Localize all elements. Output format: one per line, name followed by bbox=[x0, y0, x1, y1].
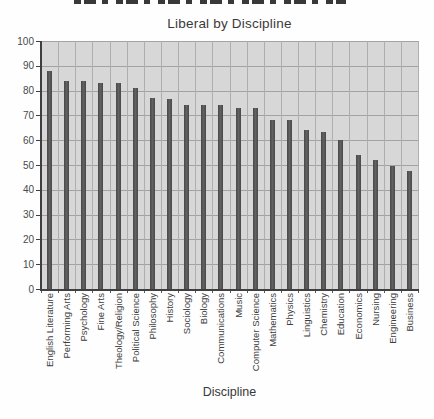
x-category-label-theology-religion: Theology/Religion bbox=[112, 293, 125, 383]
x-gridline bbox=[315, 41, 316, 289]
x-category-label-sociology: Sociology bbox=[180, 293, 193, 383]
x-category-label-business: Business bbox=[403, 293, 416, 383]
y-axis-tick-label: 10 bbox=[6, 259, 34, 270]
bar-performing-arts bbox=[64, 81, 69, 289]
x-gridline bbox=[75, 41, 76, 289]
y-axis-tick-label: 60 bbox=[6, 135, 34, 146]
bar-mathematics bbox=[270, 120, 275, 289]
bar-theology-religion bbox=[116, 83, 121, 289]
x-gridline bbox=[178, 41, 179, 289]
y-axis-tick-label: 20 bbox=[6, 234, 34, 245]
x-gridline bbox=[298, 41, 299, 289]
bar-economics bbox=[356, 155, 361, 289]
x-gridline bbox=[127, 41, 128, 289]
x-category-label-philosophy: Philosophy bbox=[146, 293, 159, 383]
bar-nursing bbox=[373, 160, 378, 289]
x-gridline bbox=[110, 41, 111, 289]
y-axis-line bbox=[40, 41, 42, 291]
y-axis-tick-label: 90 bbox=[6, 60, 34, 71]
x-category-label-computer-science: Computer Science bbox=[249, 293, 262, 383]
x-gridline bbox=[401, 41, 402, 289]
x-category-label-english-literature: English Literature bbox=[43, 293, 56, 383]
x-category-label-psychology: Psychology bbox=[77, 293, 90, 383]
bar-business bbox=[407, 171, 412, 289]
x-category-label-physics: Physics bbox=[283, 293, 296, 383]
x-gridline bbox=[349, 41, 350, 289]
x-axis-baseline bbox=[40, 289, 419, 291]
x-gridline bbox=[281, 41, 282, 289]
x-category-label-performing-arts: Performing Arts bbox=[60, 293, 73, 383]
x-gridline bbox=[92, 41, 93, 289]
bar-linguistics bbox=[304, 130, 309, 289]
x-category-label-political-science: Political Science bbox=[129, 293, 142, 383]
x-category-label-education: Education bbox=[334, 293, 347, 383]
x-category-label-chemistry: Chemistry bbox=[317, 293, 330, 383]
chart-title: Liberal by Discipline bbox=[41, 16, 418, 31]
x-category-label-linguistics: Linguistics bbox=[300, 293, 313, 383]
y-axis-tick-label: 0 bbox=[6, 284, 34, 295]
bar-history bbox=[167, 99, 172, 289]
bar-philosophy bbox=[150, 98, 155, 289]
x-gridline bbox=[247, 41, 248, 289]
x-category-label-communications: Communications bbox=[214, 293, 227, 383]
x-gridline bbox=[367, 41, 368, 289]
bar-psychology bbox=[81, 81, 86, 289]
x-gridline bbox=[418, 41, 419, 289]
bar-computer-science bbox=[253, 108, 258, 289]
x-category-label-history: History bbox=[163, 293, 176, 383]
y-axis-tick-label: 40 bbox=[6, 184, 34, 195]
x-gridline bbox=[332, 41, 333, 289]
bar-fine-arts bbox=[98, 83, 103, 289]
y-axis-tick-label: 100 bbox=[6, 36, 34, 47]
x-gridline bbox=[212, 41, 213, 289]
x-category-label-fine-arts: Fine Arts bbox=[94, 293, 107, 383]
x-gridline bbox=[195, 41, 196, 289]
x-category-label-engineering: Engineering bbox=[386, 293, 399, 383]
x-gridline bbox=[144, 41, 145, 289]
bar-communications bbox=[218, 105, 223, 289]
x-gridline bbox=[161, 41, 162, 289]
bar-engineering bbox=[390, 166, 395, 289]
x-axis-title: Discipline bbox=[41, 385, 418, 399]
y-axis-tick-label: 70 bbox=[6, 110, 34, 121]
x-category-label-biology: Biology bbox=[197, 293, 210, 383]
y-axis-tick-label: 50 bbox=[6, 160, 34, 171]
x-category-label-economics: Economics bbox=[352, 293, 365, 383]
bar-biology bbox=[201, 105, 206, 289]
x-gridline bbox=[230, 41, 231, 289]
x-gridline bbox=[384, 41, 385, 289]
x-category-label-music: Music bbox=[232, 293, 245, 383]
bar-sociology bbox=[184, 105, 189, 289]
y-axis-tick-label: 30 bbox=[6, 209, 34, 220]
bar-english-literature bbox=[47, 71, 52, 289]
bar-chemistry bbox=[321, 132, 326, 289]
bar-political-science bbox=[133, 88, 138, 289]
bar-music bbox=[236, 108, 241, 289]
y-axis-tick-label: 80 bbox=[6, 85, 34, 96]
x-gridline bbox=[58, 41, 59, 289]
x-category-label-nursing: Nursing bbox=[369, 293, 382, 383]
bar-education bbox=[338, 140, 343, 289]
cropped-text-fragment bbox=[74, 0, 346, 4]
chart-page: Liberal by Discipline 010203040506070809… bbox=[0, 0, 434, 419]
x-category-label-mathematics: Mathematics bbox=[266, 293, 279, 383]
x-gridline bbox=[264, 41, 265, 289]
bar-physics bbox=[287, 120, 292, 289]
